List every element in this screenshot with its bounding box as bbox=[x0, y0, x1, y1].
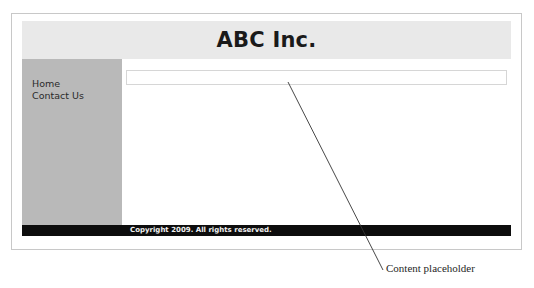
webpage-mock: ABC Inc. Home Contact Us Copyright 2009.… bbox=[22, 21, 511, 242]
copyright-text: Copyright 2009. All rights reserved. bbox=[130, 225, 272, 236]
site-header: ABC Inc. bbox=[22, 21, 511, 59]
figure-container: ABC Inc. Home Contact Us Copyright 2009.… bbox=[0, 0, 534, 288]
page-body: Home Contact Us bbox=[22, 59, 511, 225]
site-footer: Copyright 2009. All rights reserved. bbox=[22, 225, 511, 236]
page-title: ABC Inc. bbox=[22, 21, 511, 59]
figure-frame: ABC Inc. Home Contact Us Copyright 2009.… bbox=[11, 13, 522, 250]
sidebar: Home Contact Us bbox=[22, 59, 122, 225]
sidebar-item-home[interactable]: Home bbox=[32, 78, 118, 90]
content-area bbox=[122, 59, 511, 225]
annotation-caption: Content placeholder bbox=[386, 262, 475, 274]
content-placeholder[interactable] bbox=[126, 70, 507, 85]
sidebar-nav: Home Contact Us bbox=[32, 78, 118, 102]
sidebar-item-contact-us[interactable]: Contact Us bbox=[32, 90, 118, 102]
